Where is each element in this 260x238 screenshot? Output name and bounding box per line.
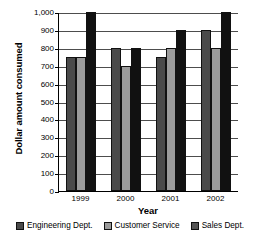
bar-group	[149, 13, 194, 191]
bar	[221, 12, 231, 191]
bar	[111, 48, 121, 191]
y-tick-mark	[55, 138, 59, 139]
bar	[166, 48, 176, 191]
legend-swatch-icon	[16, 222, 24, 230]
plot-wrapper: 01002003004005006007008009001,000	[29, 13, 238, 192]
y-tick-label: 400	[29, 116, 54, 124]
y-tick-mark	[55, 49, 59, 50]
y-tick-mark	[55, 120, 59, 121]
y-tick-label: 0	[29, 188, 54, 196]
bar	[76, 57, 86, 191]
y-tick-mark	[55, 31, 59, 32]
bar	[131, 48, 141, 191]
y-tick-label: 800	[29, 45, 54, 53]
bar	[201, 30, 211, 191]
y-tick-label: 1,000	[29, 9, 54, 17]
plot-area	[58, 13, 238, 192]
legend-label: Customer Service	[115, 221, 180, 230]
y-tick-label: 100	[29, 170, 54, 178]
y-tick-label: 700	[29, 63, 54, 71]
y-tick-label: 500	[29, 99, 54, 107]
legend-label: Engineering Dept.	[27, 221, 93, 230]
y-tick-label: 300	[29, 134, 54, 142]
legend-swatch-icon	[191, 222, 199, 230]
y-tick-mark	[55, 103, 59, 104]
bar-chart: Dollar amount consumed 01002003004005006…	[0, 0, 260, 238]
y-tick-mark	[55, 156, 59, 157]
y-tick-mark	[55, 85, 59, 86]
x-axis-tick-labels: 1999200020012002	[58, 194, 238, 204]
legend-item: Engineering Dept.	[16, 221, 93, 230]
x-tick-label: 2000	[103, 194, 148, 204]
y-tick-label: 900	[29, 27, 54, 35]
bar-group	[59, 13, 104, 191]
chart-legend: Engineering Dept.Customer ServiceSales D…	[0, 221, 260, 230]
x-tick-label: 1999	[58, 194, 103, 204]
x-axis-title: Year	[58, 205, 238, 216]
bar-group	[193, 13, 238, 191]
y-tick-mark	[55, 13, 59, 14]
y-axis-title-label: Dollar amount consumed	[14, 42, 25, 154]
y-axis-tick-labels: 01002003004005006007008009001,000	[29, 13, 54, 192]
y-tick-label: 200	[29, 152, 54, 160]
legend-swatch-icon	[104, 222, 112, 230]
legend-label: Sales Dept.	[202, 221, 244, 230]
bar	[156, 57, 166, 191]
bar-group	[104, 13, 149, 191]
bar	[66, 57, 76, 191]
bar	[176, 30, 186, 191]
y-tick-mark	[55, 192, 59, 193]
x-tick-label: 2001	[148, 194, 193, 204]
legend-item: Sales Dept.	[191, 221, 244, 230]
bar	[121, 66, 131, 191]
legend-item: Customer Service	[104, 221, 180, 230]
y-axis-title: Dollar amount consumed	[11, 0, 27, 196]
bar	[86, 12, 96, 191]
x-tick-label: 2002	[193, 194, 238, 204]
bar	[211, 48, 221, 191]
y-tick-label: 600	[29, 81, 54, 89]
y-tick-mark	[55, 67, 59, 68]
y-tick-mark	[55, 174, 59, 175]
bars-layer	[59, 13, 238, 191]
